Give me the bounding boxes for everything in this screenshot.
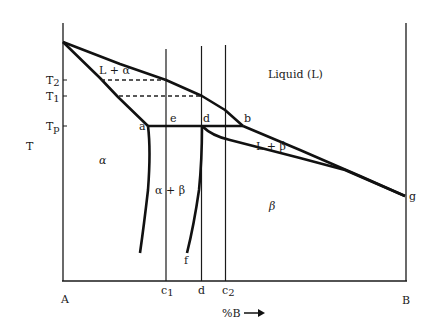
region-alpha-beta: α + β <box>155 184 185 197</box>
arrow-right-icon <box>244 309 265 317</box>
point-a: a <box>139 120 146 133</box>
region-l-alpha: L + α <box>99 64 131 77</box>
svg-text:Tp: Tp <box>46 120 60 134</box>
solvus-alpha <box>140 126 150 253</box>
y-axis-label: T <box>26 140 34 153</box>
region-liquid: Liquid (L) <box>268 68 323 81</box>
axis-label-d: d <box>198 284 205 297</box>
solidus-alpha <box>63 42 148 126</box>
solidus-beta <box>202 126 405 196</box>
point-f: f <box>184 254 189 267</box>
phase-diagram: T2 T1 Tp T a e d b f g Liquid (L) L + α … <box>0 0 438 332</box>
point-e: e <box>170 112 177 125</box>
end-label-b: B <box>402 294 410 307</box>
region-beta: β <box>268 200 275 213</box>
point-d: d <box>203 112 210 125</box>
svg-text:c1: c1 <box>161 284 174 298</box>
liquidus-alpha <box>63 42 243 126</box>
region-alpha: α <box>99 154 107 167</box>
x-axis-label: %B <box>222 307 241 320</box>
svg-text:T2: T2 <box>46 74 60 88</box>
region-l-beta: L + β <box>256 140 286 153</box>
point-g: g <box>409 190 416 203</box>
solvus-beta <box>187 126 202 253</box>
end-label-a: A <box>60 293 70 306</box>
svg-text:c2: c2 <box>222 284 235 298</box>
svg-text:T1: T1 <box>46 90 60 104</box>
point-b: b <box>244 112 251 125</box>
